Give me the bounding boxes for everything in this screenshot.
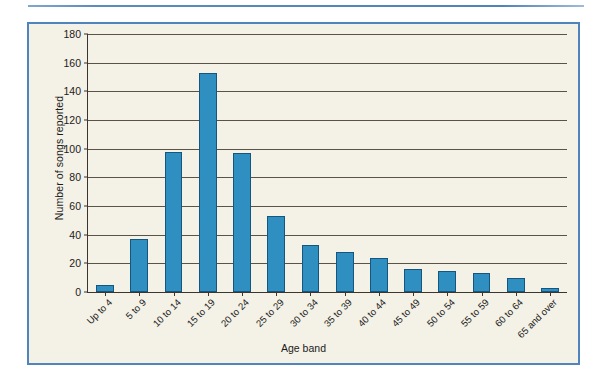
bar-slot	[499, 34, 533, 292]
bar-slot	[430, 34, 464, 292]
bar	[336, 252, 354, 292]
plot-area: 020406080100120140160180	[88, 34, 567, 292]
bar	[165, 152, 183, 292]
top-divider-rule	[28, 5, 584, 7]
bar	[438, 271, 456, 293]
bar-slot	[328, 34, 362, 292]
y-tick-label: 100	[63, 143, 81, 155]
y-tick-label: 140	[63, 85, 81, 97]
y-tick-label: 20	[69, 257, 81, 269]
bar-slot	[362, 34, 396, 292]
y-tick-label: 40	[69, 229, 81, 241]
y-tick-label: 80	[69, 171, 81, 183]
bar	[96, 285, 114, 292]
bar-slot	[533, 34, 567, 292]
bar	[404, 269, 422, 292]
bar-slot	[122, 34, 156, 292]
y-tick-label: 120	[63, 114, 81, 126]
chart-canvas: Number of songs reported 020406080100120…	[29, 24, 578, 363]
bar-slot	[464, 34, 498, 292]
bar	[507, 278, 525, 292]
x-tick-label: Up to 4	[85, 297, 115, 327]
y-tick-label: 160	[63, 57, 81, 69]
y-tick-label: 180	[63, 28, 81, 40]
bar	[130, 239, 148, 292]
bar-slot	[191, 34, 225, 292]
bar-slot	[293, 34, 327, 292]
bar-slot	[396, 34, 430, 292]
chart-frame: Number of songs reported 020406080100120…	[27, 22, 580, 365]
x-axis-line	[87, 292, 567, 293]
y-tick-label: 60	[69, 200, 81, 212]
bar	[473, 273, 491, 292]
bar	[199, 73, 217, 292]
bar-slot	[156, 34, 190, 292]
y-tick-label: 0	[75, 286, 81, 298]
bar	[370, 258, 388, 292]
x-axis-title: Age band	[29, 342, 578, 354]
bar-slot	[225, 34, 259, 292]
bar-slot	[88, 34, 122, 292]
bar	[233, 153, 251, 292]
x-tick-label: 5 to 9	[124, 297, 149, 322]
bar-series	[88, 34, 567, 292]
bar	[267, 216, 285, 292]
bar	[302, 245, 320, 292]
bar-slot	[259, 34, 293, 292]
